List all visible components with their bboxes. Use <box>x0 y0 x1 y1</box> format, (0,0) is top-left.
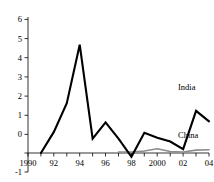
y-axis-ticks <box>25 19 29 172</box>
y-tick-label-5: 5 <box>6 35 22 44</box>
y-tick-label-6: 6 <box>6 15 22 24</box>
series-line-china <box>119 149 210 152</box>
x-tick-label-1990: 1990 <box>14 159 42 168</box>
x-tick-label-04: 04 <box>199 159 214 168</box>
series-label-india: India <box>178 83 195 92</box>
y-tick-label-neg1: -1 <box>4 168 22 177</box>
y-tick-label-1: 1 <box>6 111 22 120</box>
x-tick-label-92: 92 <box>44 159 64 168</box>
x-tick-label-98: 98 <box>121 159 141 168</box>
series-label-china: China <box>178 131 198 140</box>
y-tick-label-3: 3 <box>6 73 22 82</box>
y-tick-label-2: 2 <box>6 92 22 101</box>
x-tick-label-96: 96 <box>96 159 116 168</box>
x-tick-label-02: 02 <box>173 159 193 168</box>
y-tick-label-4: 4 <box>6 54 22 63</box>
x-tick-label-2000: 2000 <box>143 159 171 168</box>
line-chart: 6 5 4 3 2 1 0 -1 1990 92 94 96 98 2000 0… <box>0 0 214 182</box>
y-tick-label-0: 0 <box>6 130 22 139</box>
x-axis-ticks <box>28 153 209 157</box>
series-line-india <box>41 45 209 157</box>
x-tick-label-94: 94 <box>70 159 90 168</box>
